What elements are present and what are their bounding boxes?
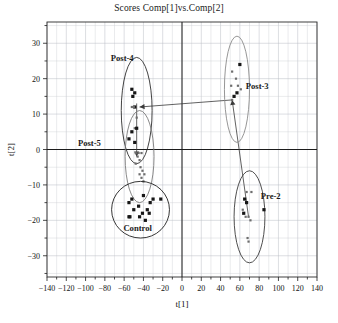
connector-arrowhead bbox=[140, 104, 145, 109]
data-point bbox=[249, 219, 251, 221]
y-tick-label: 20 bbox=[32, 75, 40, 84]
data-point bbox=[131, 95, 134, 98]
data-point bbox=[245, 201, 248, 204]
data-point bbox=[130, 88, 133, 91]
data-point bbox=[138, 159, 140, 161]
data-point bbox=[143, 173, 145, 175]
data-point bbox=[230, 85, 232, 87]
x-tick-label: −60 bbox=[118, 284, 131, 293]
x-tick-label: 0 bbox=[180, 284, 184, 293]
data-point bbox=[237, 85, 239, 87]
cluster-connector bbox=[140, 100, 233, 107]
data-point bbox=[262, 208, 265, 211]
data-point bbox=[142, 194, 145, 197]
y-tick-label: 10 bbox=[32, 110, 40, 119]
x-tick-label: 120 bbox=[292, 284, 304, 293]
cluster-label-control: Control bbox=[123, 223, 152, 233]
cluster-label-pre-2: Pre-2 bbox=[261, 191, 281, 201]
y-tick-label: 0 bbox=[36, 146, 40, 155]
x-tick-label: 60 bbox=[236, 284, 244, 293]
data-point bbox=[140, 177, 142, 179]
x-tick-label: 100 bbox=[272, 284, 284, 293]
data-point bbox=[133, 141, 136, 144]
data-point bbox=[130, 197, 133, 200]
data-point bbox=[247, 216, 249, 218]
data-point bbox=[250, 191, 252, 193]
y-tick-label: −20 bbox=[27, 216, 40, 225]
data-point bbox=[137, 205, 140, 208]
data-point bbox=[131, 106, 133, 108]
data-point bbox=[138, 215, 141, 218]
data-point bbox=[235, 78, 237, 80]
cluster-ellipse-post-5 bbox=[125, 111, 154, 203]
x-tick-label: 140 bbox=[311, 284, 323, 293]
data-point bbox=[246, 191, 248, 193]
data-point bbox=[132, 208, 135, 211]
data-point bbox=[133, 91, 136, 94]
data-point bbox=[135, 163, 137, 165]
data-point bbox=[141, 170, 143, 172]
x-tick-label: −20 bbox=[156, 284, 169, 293]
y-axis-title: t[2] bbox=[6, 143, 16, 156]
cluster-label-post-4: Post-4 bbox=[111, 53, 135, 63]
data-point bbox=[144, 219, 147, 222]
data-point bbox=[243, 197, 246, 200]
figure-caption bbox=[0, 316, 338, 323]
data-point bbox=[238, 63, 241, 66]
data-point bbox=[240, 88, 242, 90]
data-point bbox=[141, 212, 144, 215]
x-tick-label: 40 bbox=[217, 284, 225, 293]
x-tick-label: 20 bbox=[197, 284, 205, 293]
data-point bbox=[231, 70, 233, 72]
data-point bbox=[242, 209, 244, 211]
plot-canvas: −140−120−100−80−60−40−200204060801001201… bbox=[0, 0, 338, 323]
data-point bbox=[136, 117, 138, 119]
scatter-plot-figure: Scores Comp[1]vs.Comp[2] −140−120−100−80… bbox=[0, 0, 338, 323]
data-point bbox=[245, 216, 247, 218]
data-point bbox=[148, 212, 151, 215]
data-point bbox=[138, 173, 140, 175]
data-point bbox=[159, 197, 162, 200]
data-point bbox=[130, 130, 133, 133]
data-point bbox=[139, 166, 141, 168]
data-point bbox=[138, 152, 140, 154]
x-tick-label: −120 bbox=[58, 284, 75, 293]
x-tick-label: −40 bbox=[137, 284, 150, 293]
data-point bbox=[242, 212, 245, 215]
data-point bbox=[127, 137, 130, 140]
data-point bbox=[246, 237, 248, 239]
data-point bbox=[149, 201, 152, 204]
data-point bbox=[146, 208, 149, 211]
x-tick-label: −100 bbox=[77, 284, 94, 293]
data-point bbox=[135, 152, 137, 154]
data-point bbox=[133, 106, 135, 108]
y-tick-label: −10 bbox=[27, 181, 40, 190]
data-point bbox=[127, 215, 130, 218]
data-point bbox=[140, 152, 142, 154]
x-tick-label: 80 bbox=[255, 284, 263, 293]
cluster-label-post-5: Post-5 bbox=[78, 138, 101, 148]
data-point bbox=[151, 197, 154, 200]
data-point bbox=[235, 91, 238, 94]
data-point bbox=[127, 201, 130, 204]
data-point bbox=[247, 240, 249, 242]
cluster-label-post-3: Post-3 bbox=[246, 81, 269, 91]
y-tick-label: 30 bbox=[32, 39, 40, 48]
x-tick-label: −80 bbox=[99, 284, 112, 293]
y-tick-label: −30 bbox=[27, 252, 40, 261]
x-axis-title: t[1] bbox=[176, 299, 189, 309]
data-point bbox=[232, 95, 235, 98]
data-point bbox=[231, 99, 233, 101]
data-point bbox=[135, 127, 138, 130]
data-point bbox=[137, 155, 139, 157]
x-tick-label: −140 bbox=[39, 284, 56, 293]
